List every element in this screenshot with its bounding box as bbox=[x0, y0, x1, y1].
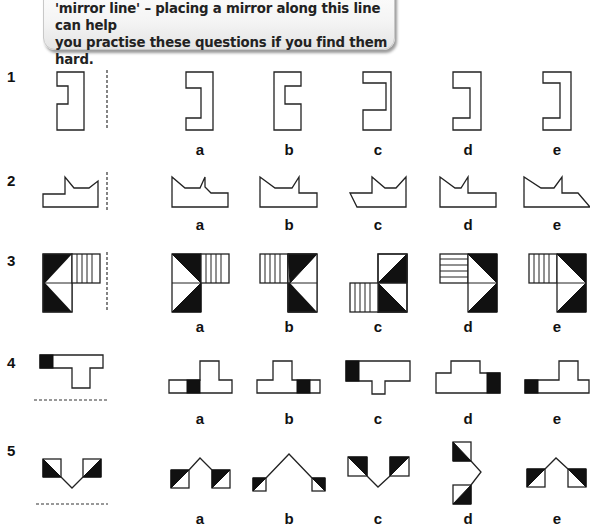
option-2d[interactable]: d bbox=[458, 216, 478, 233]
option-5c[interactable]: c bbox=[368, 510, 388, 527]
option-1c[interactable]: c bbox=[368, 141, 388, 158]
option-1b[interactable]: b bbox=[279, 141, 299, 158]
option-4e[interactable]: e bbox=[547, 410, 567, 427]
option-5b[interactable]: b bbox=[279, 510, 299, 527]
option-5e[interactable]: e bbox=[547, 510, 567, 527]
instruction-line-1: 'mirror line' – placing a mirror along t… bbox=[55, 0, 395, 34]
option-3a[interactable]: a bbox=[190, 318, 210, 335]
option-3d[interactable]: d bbox=[458, 318, 478, 335]
option-5a[interactable]: a bbox=[190, 510, 210, 527]
option-4c[interactable]: c bbox=[368, 410, 388, 427]
option-4a[interactable]: a bbox=[190, 410, 210, 427]
option-4b[interactable]: b bbox=[279, 410, 299, 427]
instruction-text: 'mirror line' – placing a mirror along t… bbox=[55, 0, 395, 68]
option-3e[interactable]: e bbox=[547, 318, 567, 335]
option-2e[interactable]: e bbox=[547, 216, 567, 233]
option-4d[interactable]: d bbox=[458, 410, 478, 427]
option-2b[interactable]: b bbox=[279, 216, 299, 233]
option-5d[interactable]: d bbox=[458, 510, 478, 527]
option-2a[interactable]: a bbox=[190, 216, 210, 233]
option-3b[interactable]: b bbox=[279, 318, 299, 335]
option-1e[interactable]: e bbox=[547, 141, 567, 158]
option-1d[interactable]: d bbox=[458, 141, 478, 158]
option-2c[interactable]: c bbox=[368, 216, 388, 233]
option-1a[interactable]: a bbox=[190, 141, 210, 158]
option-3c[interactable]: c bbox=[368, 318, 388, 335]
